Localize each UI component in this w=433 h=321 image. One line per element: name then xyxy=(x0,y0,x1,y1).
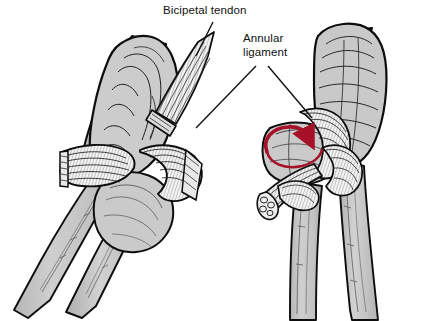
label-annular-ligament-line2: ligament xyxy=(243,46,288,58)
anatomy-illustration-canvas: Bicipetal tendon Annular ligament xyxy=(0,0,433,321)
label-bicipital-tendon: Bicipetal tendon xyxy=(163,4,246,16)
label-annular-ligament-line1: Annular xyxy=(243,32,283,44)
anatomy-figure: Bicipetal tendon Annular ligament xyxy=(0,0,433,321)
